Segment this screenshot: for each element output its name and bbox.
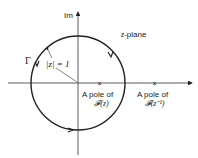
diagram-canvas: × × <box>0 0 198 158</box>
pole-marker-icon: × <box>98 80 102 87</box>
contour-label: Γ <box>25 56 31 65</box>
contour-arrow-icon <box>108 52 113 57</box>
pole-label-2: A pole of 𝓕(z⁻¹) <box>137 90 168 108</box>
pole-marker-icon: × <box>153 80 157 87</box>
imaginary-axis-label: Im <box>64 11 73 20</box>
pole-label-1: A pole of 𝓕(z) <box>82 90 113 108</box>
plane-label: z-plane <box>121 30 146 39</box>
radius-label: |z| = 1 <box>46 60 70 69</box>
radius-leader <box>48 50 52 58</box>
radius-leader <box>56 68 77 82</box>
